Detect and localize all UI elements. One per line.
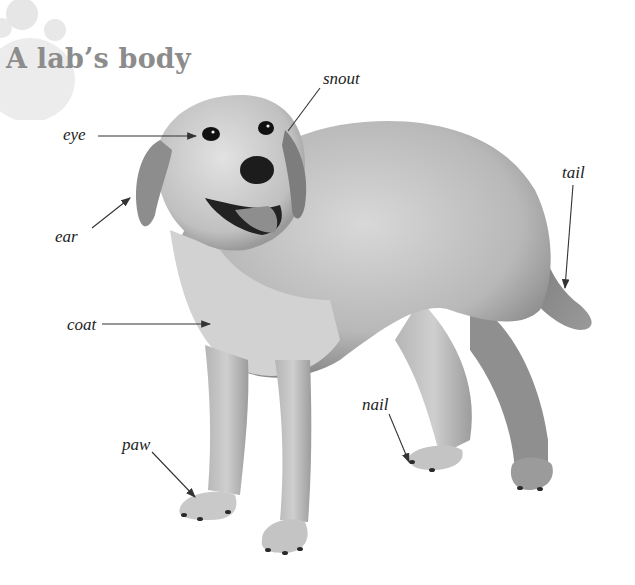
label-eye: eye [63,126,86,143]
label-coat: coat [67,316,96,333]
labrador-photo [0,0,635,585]
label-snout: snout [323,70,360,87]
book-page: A lab’s body [0,0,635,585]
label-paw: paw [122,436,150,453]
label-nail: nail [362,396,388,413]
label-tail: tail [562,164,585,181]
label-ear: ear [55,228,78,245]
